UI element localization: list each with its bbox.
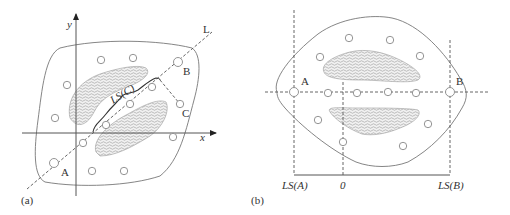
line-l-label: L (203, 23, 210, 35)
panel-a: y x L A B C LS(C) (a) (21, 14, 216, 207)
point-a-label-b: A (301, 75, 309, 87)
panel-b: A B LS(A) 0 LS(B) (b) (251, 10, 490, 207)
caption-b: (b) (251, 194, 264, 207)
obstacle-lower-b (329, 108, 419, 135)
point-c-label: C (182, 107, 189, 119)
point-a-label: A (61, 166, 69, 178)
outer-region-b (276, 17, 466, 167)
obstacle-upper-b (323, 50, 420, 81)
ls-b-label: LS(B) (437, 179, 464, 192)
projection-c (160, 80, 180, 104)
caption-a: (a) (21, 194, 34, 207)
x-axis-label: x (199, 131, 205, 143)
zero-label: 0 (340, 179, 346, 191)
point-b-label: B (183, 65, 190, 77)
diagram-canvas: y x L A B C LS(C) (a) (0, 0, 510, 215)
ls-a-label: LS(A) (281, 179, 308, 192)
y-axis-label: y (66, 18, 72, 30)
point-b-label-b: B (456, 75, 463, 87)
